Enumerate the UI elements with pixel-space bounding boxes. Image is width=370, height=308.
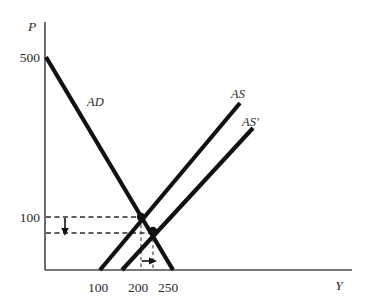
x-tick-250: 250 bbox=[158, 280, 179, 295]
as-prime-curve-label: AS' bbox=[241, 115, 259, 129]
ad-as-diagram: P Y 500 100 100 200 250 AD AS AS' bbox=[0, 0, 370, 308]
y-axis-label: P bbox=[27, 19, 36, 34]
equilibrium-point-1 bbox=[137, 213, 145, 221]
diagram-canvas: P Y 500 100 100 200 250 AD AS AS' bbox=[0, 0, 370, 308]
as-prime-curve bbox=[122, 128, 253, 270]
x-tick-100: 100 bbox=[88, 280, 109, 295]
curves-group bbox=[46, 57, 253, 270]
y-tick-500: 500 bbox=[20, 50, 41, 65]
equilibrium-point-2 bbox=[149, 227, 157, 235]
labels-group: P Y 500 100 100 200 250 AD AS AS' bbox=[20, 19, 344, 295]
y-tick-100: 100 bbox=[20, 210, 41, 225]
x-axis-label: Y bbox=[335, 278, 344, 293]
price-decrease-arrow-head bbox=[61, 228, 68, 236]
as-curve-label: AS bbox=[230, 87, 246, 101]
x-tick-200: 200 bbox=[128, 280, 149, 295]
ad-curve-label: AD bbox=[86, 95, 104, 109]
